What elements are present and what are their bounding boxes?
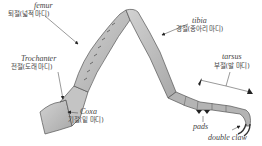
femur-pointer (45, 16, 78, 44)
tarsus-segment (168, 92, 251, 126)
pads (196, 110, 210, 114)
tarsus-bracket (200, 72, 250, 92)
trochanter-label-ko: 전절(도래 마디) (11, 64, 52, 71)
pads-label: pads (193, 123, 208, 131)
femur-label-en: femur (34, 2, 53, 10)
tibia-label-en: tibia (192, 17, 207, 25)
trochanter-pointer (58, 72, 63, 99)
double-claw-pointer (232, 126, 240, 130)
insect-leg-diagram: femur 퇴절(넓적 마디) Trochanter 전절(도래 마디) Cox… (0, 0, 262, 146)
trochanter-label-en: Trochanter (21, 55, 56, 63)
double-claw-label: double claw (208, 134, 247, 142)
femur-label-ko: 퇴절(넓적 마디) (8, 11, 49, 18)
femur-segment (74, 10, 130, 92)
coxa-label-ko: 기절(밑 마디) (68, 117, 104, 124)
tibia-label-ko: 경절(종아리 마디) (176, 26, 223, 33)
tarsus-label-ko: 부절(발 마디) (214, 63, 250, 70)
tarsus-label-en: tarsus (222, 53, 242, 61)
coxa-label-en: Coxa (80, 108, 97, 116)
leg-illustration (0, 0, 262, 146)
tibia-segment (126, 9, 176, 98)
